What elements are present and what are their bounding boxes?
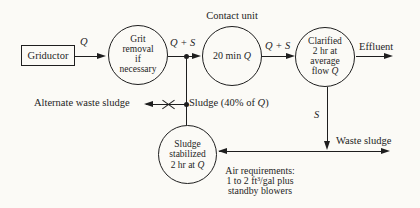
air-requirements-line3: standby blowers: [206, 186, 314, 196]
arrowhead-left-icon: [218, 148, 227, 154]
connector-junction-sludge-circle: [186, 57, 187, 125]
sludge-branch-label: Sludge (40% of Q): [189, 97, 269, 108]
effluent-label: Effluent: [359, 41, 393, 52]
process-flow-diagram: Griductor Q Grit removal if necessary Q …: [0, 0, 420, 208]
contact-unit-title: Contact unit: [200, 10, 264, 21]
alternate-waste-sludge-label: Alternate waste sludge: [34, 97, 130, 108]
air-requirements-note: Air requirements: 1 to 2 ft³/gal plus st…: [206, 166, 314, 196]
arrowhead-down-icon: [324, 141, 330, 150]
clarifier-line4-var: Q: [331, 66, 338, 76]
sludge-branch-post: ): [265, 97, 269, 108]
arrowhead-right-icon: [97, 53, 106, 59]
connector-clarified-waste: [327, 87, 328, 141]
q-plus-s-right-label: Q + S: [265, 40, 290, 51]
sludge-branch-pre: Sludge (40% of: [189, 97, 258, 108]
sludge-stabilized-line1: Sludge: [174, 139, 200, 149]
arrowhead-right-icon: [381, 148, 390, 154]
arrowhead-right-icon: [286, 53, 295, 59]
clarifier-line4: flow Q: [312, 67, 339, 77]
contact-unit-var: Q: [244, 50, 251, 61]
arrowhead-left-icon: [144, 101, 153, 107]
arrowhead-right-icon: [192, 53, 201, 59]
clarifier-node: Clarified 2 hr at average flow Q: [295, 27, 355, 87]
sludge-stabilized-line3-var: Q: [197, 160, 204, 170]
clarifier-line4-pre: flow: [312, 66, 332, 76]
grit-removal-line4: necessary: [120, 65, 157, 75]
griductor-node: Griductor: [21, 45, 75, 66]
sludge-stabilized-line3: 2 hr at Q: [171, 160, 205, 170]
connector-effluent: [356, 56, 385, 57]
arrowhead-right-icon: [384, 53, 393, 59]
waste-sludge-label: Waste sludge: [336, 135, 391, 146]
connector-contact-clarified: [262, 56, 287, 57]
connector-waste-sludge: [219, 151, 381, 152]
connector-griductor-grit: [75, 56, 99, 57]
contact-unit-pre: 20 min: [213, 50, 244, 61]
contact-unit-label: 20 min Q: [213, 51, 251, 61]
sludge-stabilized-line2: stabilized: [169, 149, 205, 159]
sludge-branch-var: Q: [258, 97, 266, 108]
griductor-label: Griductor: [28, 50, 69, 61]
grit-removal-node: Grit removal if necessary: [108, 25, 168, 85]
s-flow-label: S: [314, 109, 319, 120]
contact-unit-node: 20 min Q: [202, 26, 262, 86]
connector-grit-contact: [168, 56, 193, 57]
closed-valve-x-icon: [161, 97, 176, 112]
sludge-stabilized-line3-pre: 2 hr at: [171, 160, 198, 170]
q-plus-s-left-label: Q + S: [170, 37, 195, 48]
flow-q-label: Q: [80, 36, 88, 47]
